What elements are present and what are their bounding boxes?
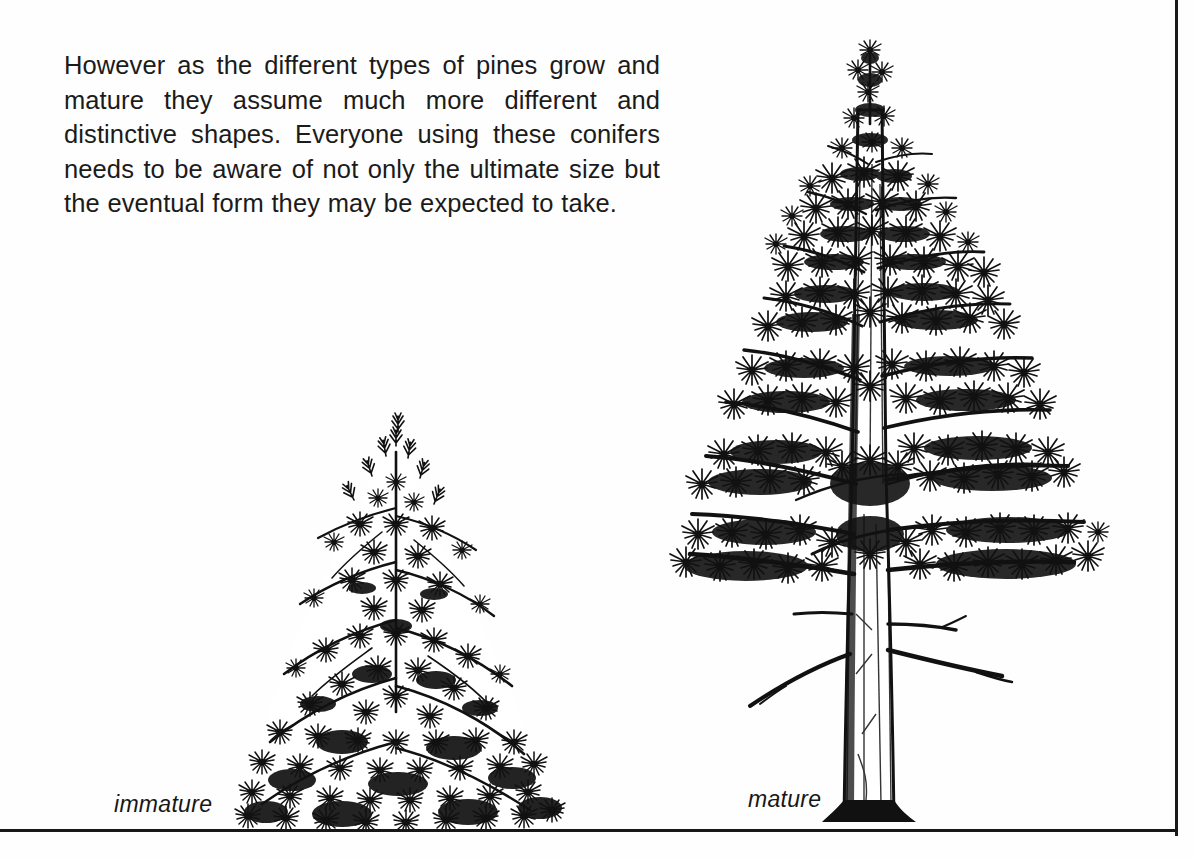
book-page: However as the different types of pines … [0, 0, 1194, 859]
paragraph-pine-growth: However as the different types of pines … [64, 48, 660, 221]
caption-mature: mature [748, 786, 821, 813]
pine-tree-mature-illustration [636, 14, 1168, 832]
pine-tree-immature-illustration [222, 412, 570, 832]
page-rule-right [1175, 0, 1178, 836]
page-rule-bottom [0, 829, 1178, 832]
body-text-block: However as the different types of pines … [64, 48, 660, 221]
caption-immature: immature [114, 791, 212, 818]
